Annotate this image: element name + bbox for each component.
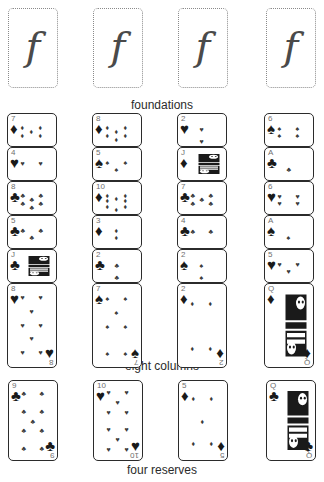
pip-club-icon: ♣: [40, 427, 45, 434]
card-2-diamond[interactable]: 2♦♦♦♦♦2♦: [177, 283, 227, 368]
card-a-spade[interactable]: A♠♠: [264, 215, 314, 249]
pip-club-icon: ♣: [209, 228, 214, 235]
card-suit-heart-icon: ♥: [267, 189, 276, 204]
card-suit-diamond-icon: ♦: [267, 291, 275, 306]
pip-spade-icon: ♠: [106, 350, 110, 357]
pip-diamond-icon: ♦: [191, 300, 195, 307]
pip-club-icon: ♣: [22, 390, 27, 397]
reserve-card-2[interactable]: 10♥♥♥♥♥♥♥♥♥♥♥10♥: [93, 380, 143, 461]
pip-heart-icon: ♥: [30, 308, 34, 315]
card-a-club[interactable]: A♣♣: [264, 147, 314, 181]
card-suit-spade-icon: ♠: [95, 291, 103, 306]
card-6-spade[interactable]: 6♠♠♠♠♠: [264, 113, 314, 147]
card-7-club[interactable]: 7♣♣♣♣♣♣: [177, 181, 227, 215]
pip-diamond-icon: ♦: [106, 197, 110, 204]
card-suit-diamond-icon: ♦: [10, 121, 18, 136]
card-2-spade[interactable]: 2♠♠♠: [177, 249, 227, 283]
pip-heart-icon: ♥: [125, 426, 129, 433]
pip-club-icon: ♣: [22, 408, 27, 415]
foundation-slot-1[interactable]: f: [8, 8, 58, 88]
court-figure-icon: [194, 152, 224, 176]
card-2-club[interactable]: 2♣♣♣: [92, 249, 142, 283]
pip-diamond-icon: ♦: [124, 203, 128, 210]
pip-heart-icon: ♥: [278, 200, 282, 207]
reserve-card-3[interactable]: 5♦♦♦♦♦♦5♦: [178, 380, 228, 461]
pip-club-icon: ♣: [21, 227, 26, 234]
pip-club-icon: ♣: [39, 192, 44, 199]
pip-spade-icon: ♠: [124, 295, 128, 302]
foundation-f-icon: f: [26, 26, 41, 66]
pip-diamond-icon: ♦: [21, 124, 25, 131]
pip-heart-icon: ♥: [21, 160, 25, 167]
pip-heart-icon: ♥: [125, 409, 129, 416]
card-q-diamond[interactable]: Q♦Q♦: [264, 283, 314, 368]
pip-heart-icon: ♥: [39, 349, 43, 356]
pip-diamond-icon: ♦: [124, 197, 128, 204]
pip-heart-icon: ♥: [278, 193, 282, 200]
card-7-spade[interactable]: 7♠♠♠♠♠♠♠♠7♠: [92, 283, 142, 368]
card-suit-diamond-icon: ♦: [181, 388, 189, 403]
pip-club-icon: ♣: [30, 204, 35, 211]
card-8-diamond[interactable]: 8♦♦♦♦♦♦♦: [92, 113, 142, 147]
reserves-caption: four reserves: [0, 463, 324, 477]
pip-diamond-icon: ♦: [124, 132, 128, 139]
pip-club-icon: ♣: [40, 445, 45, 452]
pip-spade-icon: ♠: [200, 262, 204, 269]
card-5-heart[interactable]: 5♥♥♥♥: [264, 249, 314, 283]
pip-spade-icon: ♠: [296, 125, 300, 132]
pip-diamond-icon: ♦: [115, 206, 119, 213]
card-5-spade[interactable]: 5♠♠♠♠: [92, 147, 142, 181]
foundation-slot-4[interactable]: f: [266, 8, 316, 88]
card-suit-club-icon: ♣: [95, 257, 105, 272]
card-suit-club-icon: ♣: [180, 223, 190, 238]
card-4-club[interactable]: 4♣♣♣: [177, 215, 227, 249]
pip-heart-icon: ♥: [21, 349, 25, 356]
card-suit-club-icon: ♣: [10, 223, 20, 238]
pip-diamond-icon: ♦: [21, 132, 25, 139]
card-suit-spade-icon: ♠: [267, 121, 275, 136]
card-j-diamond[interactable]: J♦: [177, 147, 227, 181]
pip-diamond-icon: ♦: [210, 440, 214, 447]
card-2-heart[interactable]: 2♥♥♥: [177, 113, 227, 147]
foundation-f-icon: f: [196, 26, 211, 66]
card-j-club[interactable]: J♣: [7, 249, 57, 283]
card-suit-diamond-icon: ♦: [95, 189, 103, 204]
solitaire-board: ffff foundations 7♦♦♦♦♦♦4♥♥♥8♣♣♣♣♣♣♣5♣♣♣…: [0, 0, 324, 482]
card-8-club[interactable]: 8♣♣♣♣♣♣♣: [7, 181, 57, 215]
pip-heart-icon: ♥: [107, 409, 111, 416]
foundation-f-icon: f: [284, 26, 299, 66]
pip-heart-icon: ♥: [287, 268, 291, 275]
foundation-slot-3[interactable]: f: [178, 8, 228, 88]
foundations-caption: foundations: [0, 98, 324, 112]
pip-club-icon: ♣: [39, 200, 44, 207]
pip-heart-icon: ♥: [278, 261, 282, 268]
card-6-heart[interactable]: 6♥♥♥♥♥: [264, 181, 314, 215]
card-suit-club-icon: ♣: [180, 189, 190, 204]
card-8-heart[interactable]: 8♥♥♥♥♥♥♥♥♥8♥: [7, 283, 57, 368]
card-3-diamond[interactable]: 3♦♦♦: [92, 215, 142, 249]
card-suit-heart-mirrored-icon: ♥: [45, 345, 54, 360]
pip-club-icon: ♣: [191, 228, 196, 235]
card-suit-club-icon: ♣: [10, 189, 20, 204]
pip-heart-icon: ♥: [30, 335, 34, 342]
card-4-heart[interactable]: 4♥♥♥: [7, 147, 57, 181]
pip-heart-icon: ♥: [107, 426, 111, 433]
card-suit-club-icon: ♣: [11, 388, 21, 403]
card-suit-heart-icon: ♥: [180, 121, 189, 136]
card-7-diamond[interactable]: 7♦♦♦♦♦♦: [7, 113, 57, 147]
card-5-club[interactable]: 5♣♣♣♣: [7, 215, 57, 249]
pip-heart-icon: ♥: [296, 261, 300, 268]
foundation-slot-2[interactable]: f: [93, 8, 143, 88]
pip-heart-icon: ♥: [116, 399, 120, 406]
pip-spade-icon: ♠: [124, 350, 128, 357]
pip-club-icon: ♣: [191, 200, 196, 207]
pip-spade-icon: ♠: [278, 132, 282, 139]
reserve-card-1[interactable]: 9♣♣♣♣♣♣♣♣♣♣9♣: [8, 380, 58, 461]
reserve-card-4[interactable]: Q♣Q♣: [266, 380, 316, 461]
pip-heart-icon: ♥: [200, 126, 204, 133]
card-10-diamond[interactable]: 10♦♦♦♦♦♦♦♦♦: [92, 181, 142, 215]
pip-diamond-icon: ♦: [115, 195, 119, 202]
pip-club-icon: ♣: [31, 418, 36, 425]
pip-heart-icon: ♥: [296, 193, 300, 200]
card-suit-diamond-icon: ♦: [95, 121, 103, 136]
